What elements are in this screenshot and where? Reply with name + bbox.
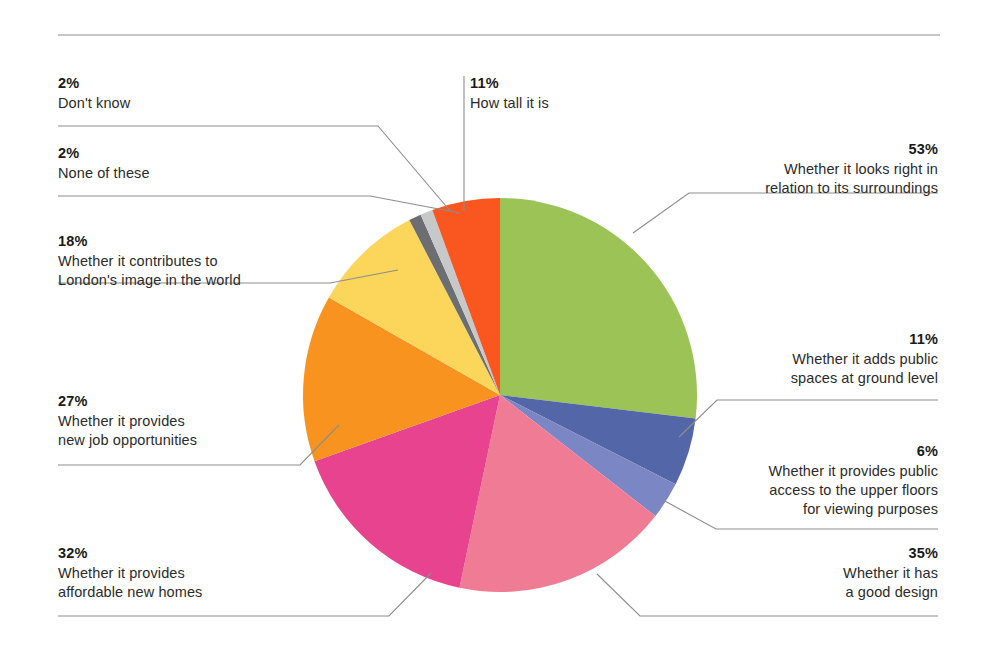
callout-job-opportunities: 27% Whether it provides new job opportun… <box>58 392 378 450</box>
callout-line: How tall it is <box>470 94 690 113</box>
callout-line: Whether it contributes to <box>58 252 378 271</box>
leader-none-of-these <box>58 196 460 213</box>
callout-good-design: 35% Whether it has a good design <box>608 544 938 602</box>
callout-line: affordable new homes <box>58 583 388 602</box>
callout-percent: 6% <box>608 442 938 461</box>
callout-line: London's image in the world <box>58 271 378 290</box>
callout-description: Whether it provides affordable new homes <box>58 564 388 602</box>
callout-percent: 32% <box>58 544 388 563</box>
callout-ground-level: 11% Whether it adds public spaces at gro… <box>608 330 938 388</box>
callout-percent: 27% <box>58 392 378 411</box>
callout-percent: 35% <box>608 544 938 563</box>
callout-line: Whether it looks right in <box>608 160 938 179</box>
callout-how-tall: 11% How tall it is <box>470 74 690 113</box>
callout-percent: 2% <box>58 74 358 93</box>
callout-line: access to the upper floors <box>608 481 938 500</box>
callout-line: Whether it provides <box>58 564 388 583</box>
callout-description: None of these <box>58 164 358 183</box>
callout-line: Whether it provides public <box>608 462 938 481</box>
callout-line: spaces at ground level <box>608 369 938 388</box>
pie-chart-page: 53% Whether it looks right in relation t… <box>0 0 986 655</box>
callout-line: a good design <box>608 583 938 602</box>
callout-percent: 53% <box>608 140 938 159</box>
callout-percent: 11% <box>470 74 690 93</box>
callout-surroundings: 53% Whether it looks right in relation t… <box>608 140 938 198</box>
callout-line: new job opportunities <box>58 431 378 450</box>
callout-line: None of these <box>58 164 358 183</box>
callout-none-of-these: 2% None of these <box>58 144 358 183</box>
callout-upper-floors: 6% Whether it provides public access to … <box>608 442 938 520</box>
callout-description: Whether it provides new job opportunitie… <box>58 412 378 450</box>
leader-ground-level <box>679 400 938 437</box>
callout-percent: 11% <box>608 330 938 349</box>
callout-description: Whether it looks right in relation to it… <box>608 160 938 198</box>
callout-percent: 2% <box>58 144 358 163</box>
callout-percent: 18% <box>58 232 378 251</box>
callout-line: Don't know <box>58 94 358 113</box>
callout-line: relation to its surroundings <box>608 179 938 198</box>
callout-affordable-homes: 32% Whether it provides affordable new h… <box>58 544 388 602</box>
callout-description: Whether it provides public access to the… <box>608 462 938 519</box>
callout-line: Whether it has <box>608 564 938 583</box>
callout-description: Whether it contributes to London's image… <box>58 252 378 290</box>
callout-line: for viewing purposes <box>608 500 938 519</box>
callout-line: Whether it adds public <box>608 350 938 369</box>
callout-description: Whether it adds public spaces at ground … <box>608 350 938 388</box>
callout-line: Whether it provides <box>58 412 378 431</box>
callout-description: Don't know <box>58 94 358 113</box>
callout-description: Whether it has a good design <box>608 564 938 602</box>
leader-surroundings <box>633 193 938 233</box>
callout-londons-image: 18% Whether it contributes to London's i… <box>58 232 378 290</box>
callout-dont-know: 2% Don't know <box>58 74 358 113</box>
callout-description: How tall it is <box>470 94 690 113</box>
